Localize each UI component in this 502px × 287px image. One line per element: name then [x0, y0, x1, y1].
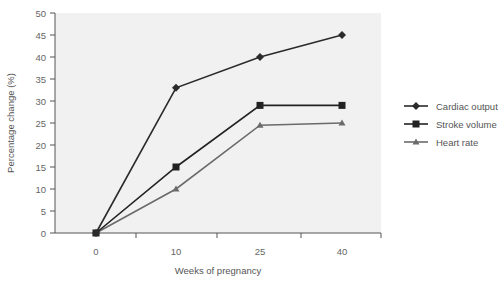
y-tick-label: 50 [35, 8, 46, 19]
y-tick-label: 5 [41, 206, 46, 217]
x-tick-label: 25 [255, 246, 266, 257]
legend-label: Stroke volume [436, 119, 497, 130]
legend-item: Stroke volume [404, 119, 497, 130]
y-tick-label: 30 [35, 96, 46, 107]
y-tick-label: 10 [35, 184, 46, 195]
y-tick-label: 40 [35, 52, 46, 63]
x-tick-label: 40 [337, 246, 348, 257]
legend: Cardiac outputStroke volumeHeart rate [404, 101, 498, 148]
y-tick-label: 45 [35, 30, 46, 41]
y-tick-label: 15 [35, 162, 46, 173]
legend-label: Cardiac output [436, 101, 498, 112]
square-marker-icon [413, 121, 420, 128]
x-tick-label: 10 [171, 246, 182, 257]
x-axis-title: Weeks of pregnancy [175, 265, 262, 276]
y-tick-label: 0 [41, 228, 46, 239]
legend-label: Heart rate [436, 137, 478, 148]
y-tick-label: 35 [35, 74, 46, 85]
y-tick-label: 25 [35, 118, 46, 129]
x-axis: 0102540 [55, 233, 381, 257]
line-chart: 05101520253035404550 0102540 Percentage … [0, 0, 502, 287]
y-axis-title: Percentage change (%) [5, 73, 16, 173]
y-axis: 05101520253035404550 [35, 8, 55, 239]
diamond-marker-icon [412, 102, 420, 110]
legend-item: Heart rate [404, 137, 478, 148]
y-tick-label: 20 [35, 140, 46, 151]
x-tick-label: 0 [93, 246, 98, 257]
legend-item: Cardiac output [404, 101, 498, 112]
